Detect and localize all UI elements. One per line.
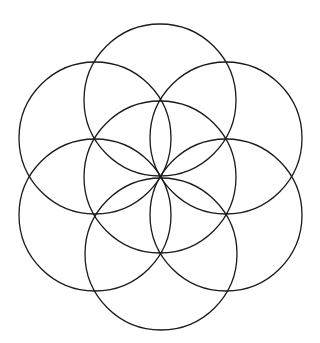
circle-lower-left	[19, 139, 171, 291]
seed-of-life-diagram	[0, 0, 320, 343]
circle-group	[19, 24, 302, 330]
